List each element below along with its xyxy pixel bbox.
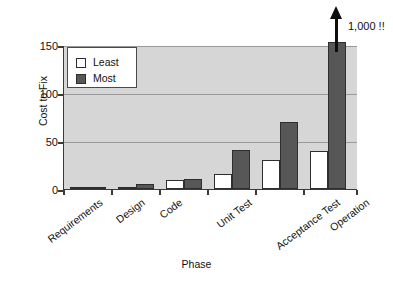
- least-swatch-icon: [76, 58, 86, 68]
- gridline-100: [64, 94, 357, 95]
- x-tick-label-unit-test: Unit Test: [214, 196, 254, 230]
- bar-most-code: [184, 179, 202, 189]
- y-tick-label-100: 100: [18, 89, 58, 100]
- x-tick-mark-5: [303, 190, 305, 195]
- legend-item-least: Least: [76, 56, 119, 69]
- bar-most-unit-test: [232, 150, 250, 189]
- bar-least-operation: [310, 151, 328, 189]
- bar-most-design: [136, 184, 154, 189]
- x-tick-mark-0: [63, 190, 65, 195]
- x-tick-label-requirements: Requirements: [45, 196, 104, 245]
- bar-most-operation: [328, 42, 346, 189]
- chart-canvas: Cost to Fix 150 100 50 0 Le: [0, 0, 393, 281]
- bar-most-requirements: [88, 187, 106, 189]
- x-tick-mark-4: [255, 190, 257, 195]
- bar-least-code: [166, 180, 184, 189]
- chart-legend: Least Most: [67, 47, 137, 88]
- annotation-label: 1,000 !!: [348, 20, 385, 32]
- bar-most-acceptance-test: [280, 122, 298, 189]
- y-tick-label-50: 50: [18, 137, 58, 148]
- x-tick-mark-2: [159, 190, 161, 195]
- x-tick-mark-1: [111, 190, 113, 195]
- x-tick-label-code: Code: [157, 196, 184, 221]
- arrow-shaft: [335, 16, 338, 52]
- bar-least-design: [118, 187, 136, 189]
- bar-least-acceptance-test: [262, 160, 280, 189]
- x-tick-mark-3: [207, 190, 209, 195]
- x-tick-label-design: Design: [114, 196, 147, 225]
- y-tick-label-0: 0: [18, 185, 58, 196]
- bar-least-requirements: [70, 187, 88, 189]
- up-arrow-icon: [330, 6, 344, 52]
- legend-label-most: Most: [93, 73, 116, 84]
- x-axis-title: Phase: [0, 258, 393, 270]
- legend-label-least: Least: [93, 57, 119, 68]
- x-tick-mark-6: [356, 190, 358, 195]
- plot-area: Least Most: [63, 46, 357, 190]
- y-tick-label-150: 150: [18, 41, 58, 52]
- gridline-50: [64, 142, 357, 143]
- bar-least-unit-test: [214, 174, 232, 189]
- most-swatch-icon: [76, 74, 86, 84]
- legend-item-most: Most: [76, 72, 116, 85]
